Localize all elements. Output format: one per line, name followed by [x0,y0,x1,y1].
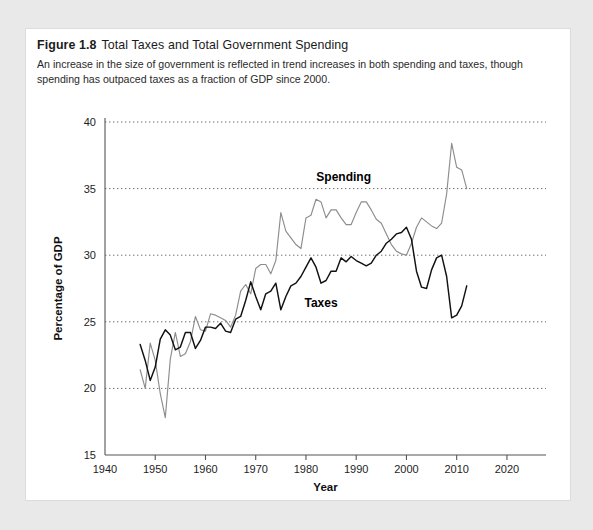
x-tick-label-1960: 1960 [193,463,217,475]
x-tick-label-2010: 2010 [444,463,468,475]
y-tick-label-15: 15 [84,449,96,461]
x-axis-title: Year [313,481,338,493]
x-tick-label-1950: 1950 [143,463,167,475]
gridlines [105,122,546,388]
x-tick-label-2000: 2000 [394,463,418,475]
y-tick-label-20: 20 [84,382,96,394]
line-chart: 152025303540 194019501960197019801990200… [26,29,570,500]
axes [105,118,546,455]
y-tick-label-40: 40 [84,116,96,128]
x-tick-label-2020: 2020 [495,463,519,475]
figure-panel: Figure 1.8Total Taxes and Total Governme… [26,29,570,500]
y-axis-tick-labels: 152025303540 [84,116,96,461]
y-axis-title: Percentage of GDP [52,236,64,340]
x-tick-label-1970: 1970 [243,463,267,475]
data-series [140,143,467,417]
axis-ticks [155,455,507,460]
x-tick-label-1990: 1990 [344,463,368,475]
y-tick-label-30: 30 [84,249,96,261]
annotation-taxes: Taxes [304,296,337,310]
y-tick-label-25: 25 [84,316,96,328]
series-line-spending [140,143,467,417]
x-tick-label-1980: 1980 [294,463,318,475]
chart-container: 152025303540 194019501960197019801990200… [26,29,570,500]
x-axis-tick-labels: 194019501960197019801990200020102020 [93,463,519,475]
series-line-taxes [140,227,467,380]
series-annotations: SpendingTaxes [304,170,371,311]
annotation-spending: Spending [316,170,371,184]
y-tick-label-35: 35 [84,183,96,195]
page-root: Figure 1.8Total Taxes and Total Governme… [0,0,593,530]
x-tick-label-1940: 1940 [93,463,117,475]
